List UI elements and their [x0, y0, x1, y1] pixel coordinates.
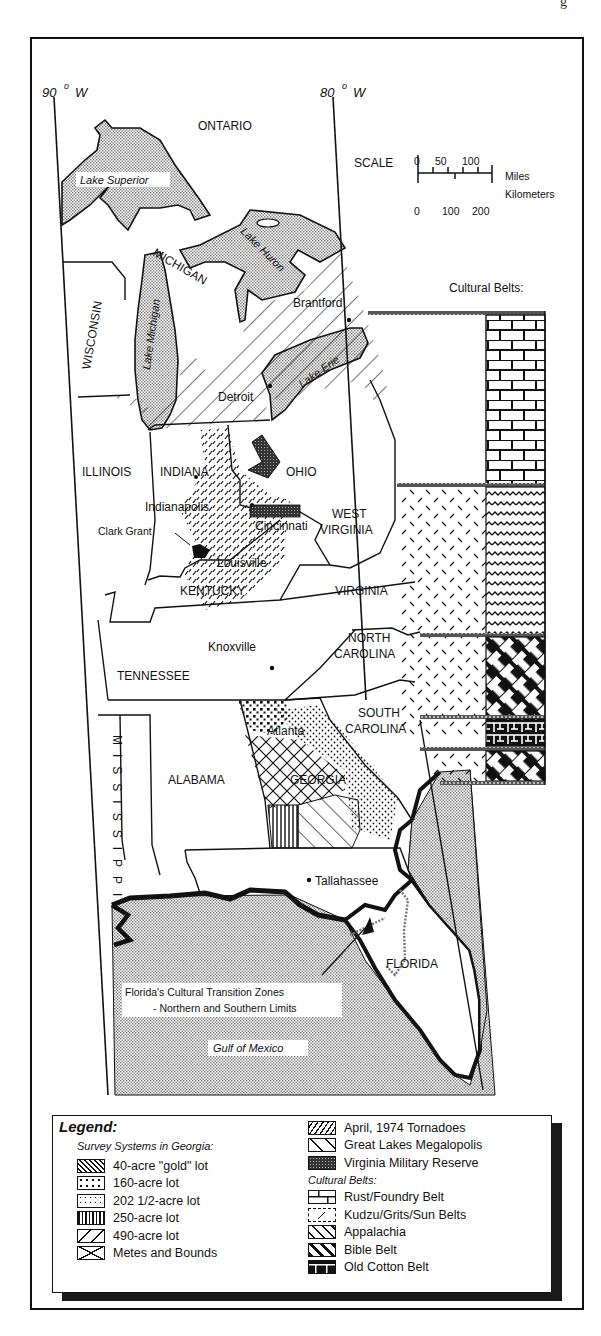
legend-item-label: Bible Belt: [344, 1243, 397, 1257]
scale-mile-0: 0: [414, 155, 420, 167]
legend-item-label: 250-acre lot: [113, 1211, 179, 1225]
legend-item: 160-acre lot: [77, 1175, 217, 1193]
manitoulin-island: [257, 219, 279, 227]
label-mississippi: MISSISSIPPI: [110, 735, 124, 905]
legend-title: Legend:: [59, 1118, 117, 1135]
city-detroit: Detroit: [218, 390, 254, 404]
tornado-swatch-icon: [308, 1121, 336, 1135]
label-kentucky: KENTUCKY: [180, 584, 245, 598]
legend-item: Old Cotton Belt: [308, 1259, 482, 1277]
legend-item-label: April, 1974 Tornadoes: [344, 1121, 465, 1135]
scale-miles-label: Miles: [505, 170, 530, 182]
georgia-250-acre-zone: [268, 805, 298, 848]
scale-mile-50: 50: [435, 155, 447, 167]
annotation-line-1: Florida's Cultural Transition Zones: [125, 986, 284, 998]
legend-item-label: 160-acre lot: [113, 1176, 179, 1190]
meridian-90w-unit: W: [75, 85, 89, 100]
scale-mile-100: 100: [462, 155, 480, 167]
legend-item-label: Metes and Bounds: [113, 1246, 217, 1260]
legend-item: 490-acre lot: [77, 1227, 217, 1245]
label-south-carolina-2: CAROLINA: [345, 722, 406, 736]
city-louisville: Louisville: [217, 556, 267, 570]
meridian-80w-degree: o: [342, 81, 347, 91]
cultural-belts-heading: Cultural Belts:: [449, 281, 524, 295]
survey-heading: Survey Systems in Georgia:: [77, 1138, 217, 1154]
scale-km-label: Kilometers: [505, 188, 555, 200]
legend-item-label: Virginia Military Reserve: [344, 1156, 479, 1170]
label-west-virginia-2: VIRGINIA: [320, 523, 373, 537]
crosshatch-swatch-icon: [77, 1246, 105, 1260]
legend-item: 40-acre "gold" lot: [77, 1157, 217, 1175]
legend-item-label: 490-acre lot: [113, 1229, 179, 1243]
city-indianapolis: Indianapolis: [145, 500, 209, 514]
legend-item: Bible Belt: [308, 1241, 482, 1259]
label-virginia: VIRGINIA: [335, 584, 388, 598]
legend-item: Rust/Foundry Belt: [308, 1189, 482, 1207]
legend-item-label: Rust/Foundry Belt: [344, 1190, 444, 1204]
meridian-90w-number: 90: [42, 85, 57, 100]
label-wisconsin: WISCONSIN: [79, 300, 105, 371]
legend-item-label: Kudzu/Grits/Sun Belts: [344, 1208, 466, 1222]
label-alabama: ALABAMA: [168, 773, 225, 787]
legend-item: Kudzu/Grits/Sun Belts: [308, 1206, 482, 1224]
meridian-90w: [54, 97, 108, 1095]
label-west-virginia-1: WEST: [332, 507, 367, 521]
virginia-military-reserve: [248, 435, 280, 478]
weave-swatch-icon: [308, 1243, 336, 1257]
city-brantford: Brantford: [293, 296, 342, 310]
scale-km-200: 200: [472, 205, 490, 217]
legend-box: Legend: Survey Systems in Georgia: 40-ac…: [52, 1115, 552, 1293]
georgia-490-acre-zone: [298, 795, 360, 848]
city-tallahassee: Tallahassee: [315, 874, 379, 888]
diag-back-swatch-icon: [77, 1159, 105, 1173]
legend-item-label: 202 1/2-acre lot: [113, 1194, 200, 1208]
city-cincinnati: Cincinnati: [255, 519, 308, 533]
cincinnati-reserve-block: [250, 505, 300, 517]
meridian-80w-number: 80: [320, 85, 335, 100]
brick-swatch-icon: [308, 1190, 336, 1204]
dashes-swatch-icon: [308, 1208, 336, 1222]
scale-km-0: 0: [414, 205, 420, 217]
city-atlanta: Atlanta: [267, 724, 305, 738]
city-clark-grant: Clark Grant: [98, 525, 152, 537]
legend-item: April, 1974 Tornadoes: [308, 1119, 482, 1137]
meridian-80w-unit: W: [353, 85, 367, 100]
legend-item-label: Appalachia: [344, 1225, 406, 1239]
label-tennessee: TENNESSEE: [117, 669, 190, 683]
label-georgia: GEORGIA: [290, 773, 346, 787]
label-illinois: ILLINOIS: [82, 465, 131, 479]
label-ontario: ONTARIO: [198, 119, 252, 133]
label-ohio: OHIO: [286, 465, 317, 479]
waves-swatch-icon: [308, 1225, 336, 1239]
legend-item: 202 1/2-acre lot: [77, 1192, 217, 1210]
legend-item: 250-acre lot: [77, 1210, 217, 1228]
scale-label: SCALE: [354, 156, 393, 170]
dark-stipple-swatch-icon: [308, 1156, 336, 1170]
belts-heading: Cultural Belts:: [308, 1172, 482, 1189]
label-florida: FLORIDA: [386, 957, 438, 971]
small-dots-swatch-icon: [77, 1194, 105, 1208]
legend-item-label: Great Lakes Megalopolis: [344, 1138, 482, 1152]
meridian-90w-degree: o: [64, 81, 69, 91]
label-south-carolina-1: SOUTH: [358, 706, 400, 720]
legend-item: Metes and Bounds: [77, 1245, 217, 1263]
clark-grant-pointer: [175, 533, 190, 545]
diag-sparse-swatch-icon: [308, 1138, 336, 1152]
label-indiana: INDIANA: [160, 465, 209, 479]
diag-forward-swatch-icon: [77, 1229, 105, 1243]
legend-item: Virginia Military Reserve: [308, 1154, 482, 1172]
city-knoxville: Knoxville: [208, 640, 256, 654]
lattice-swatch-icon: [308, 1260, 336, 1274]
legend-item: Appalachia: [308, 1224, 482, 1242]
legend-item: Great Lakes Megalopolis: [308, 1137, 482, 1155]
scale-bar: [418, 155, 492, 183]
scale-km-100: 100: [442, 205, 460, 217]
label-north-carolina-1: NORTH: [348, 631, 390, 645]
annotation-line-2: - Northern and Southern Limits: [153, 1002, 297, 1014]
label-lake-superior: Lake Superior: [80, 174, 150, 186]
legend-item-label: 40-acre "gold" lot: [113, 1159, 208, 1173]
meridian-80w: [333, 97, 366, 700]
large-dots-swatch-icon: [77, 1176, 105, 1190]
legend-other-column: April, 1974 Tornadoes Great Lakes Megalo…: [308, 1119, 482, 1276]
legend-survey-column: Survey Systems in Georgia: 40-acre "gold…: [77, 1138, 217, 1262]
